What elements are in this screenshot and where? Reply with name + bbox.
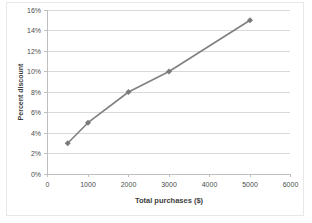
x-tick-label: 6000 xyxy=(283,181,299,188)
x-tick-label: 3000 xyxy=(161,181,177,188)
y-tick-label: 6% xyxy=(31,109,41,116)
x-tick-label: 0 xyxy=(46,181,50,188)
y-tick-label: 8% xyxy=(31,89,41,96)
y-axis-title: Percent discount xyxy=(17,63,24,120)
y-axis-ticks xyxy=(44,11,47,175)
x-tick-label: 2000 xyxy=(121,181,137,188)
y-tick-label: 16% xyxy=(27,7,41,14)
chart-page: 16% 14% 12% 10% 8% 6% 4% 2% 0% 0 1000 20… xyxy=(0,0,312,223)
y-axis-tick-labels: 16% 14% 12% 10% 8% 6% 4% 2% 0% xyxy=(27,7,41,178)
y-tick-label: 10% xyxy=(27,68,41,75)
x-axis-title: Total purchases ($) xyxy=(135,196,204,205)
y-tick-label: 4% xyxy=(31,130,41,137)
x-tick-label: 4000 xyxy=(202,181,218,188)
y-tick-label: 12% xyxy=(27,48,41,55)
y-tick-label: 2% xyxy=(31,150,41,157)
x-axis-tick-labels: 0 1000 2000 3000 4000 5000 6000 xyxy=(46,181,299,188)
line-chart: 16% 14% 12% 10% 8% 6% 4% 2% 0% 0 1000 20… xyxy=(0,0,312,223)
x-tick-label: 5000 xyxy=(242,181,258,188)
x-tick-label: 1000 xyxy=(80,181,96,188)
y-tick-label: 0% xyxy=(31,171,41,178)
y-tick-label: 14% xyxy=(27,27,41,34)
